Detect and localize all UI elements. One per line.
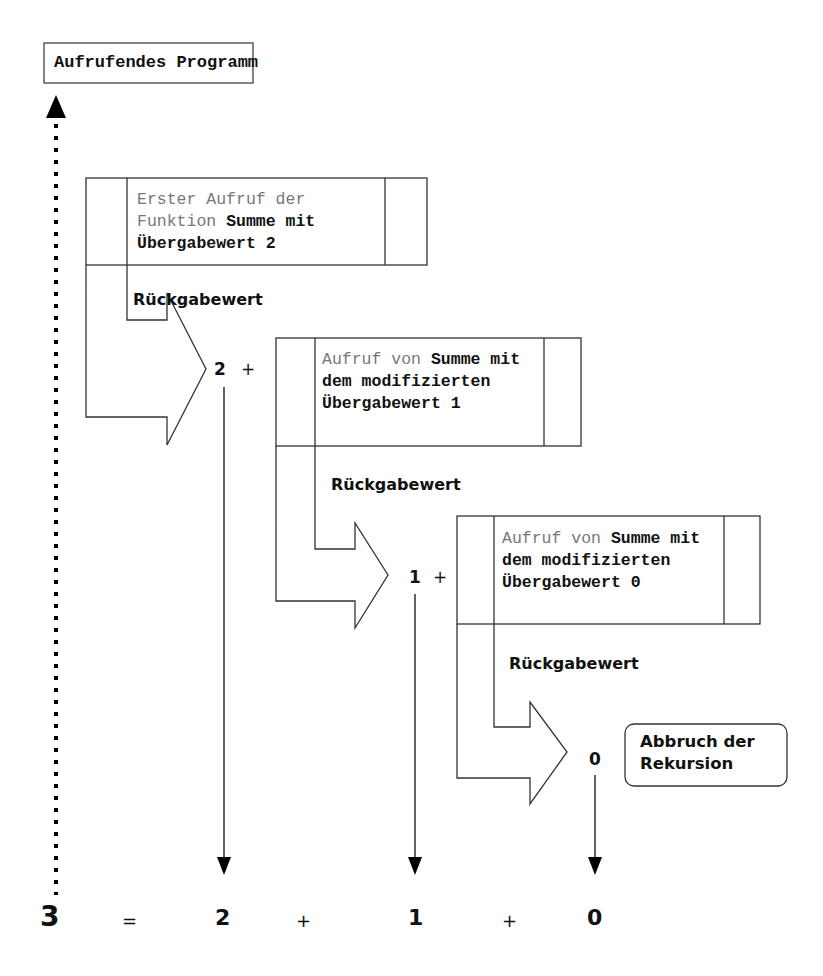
call-3-text-light: Aufruf von — [502, 529, 611, 548]
down-arrowheads — [217, 857, 602, 875]
return-to-caller-arrowhead — [46, 95, 66, 118]
call-2-plus: + — [433, 567, 447, 587]
call-3-return-label: Rückgabewert — [509, 654, 639, 673]
equation-result: 3 — [40, 900, 59, 933]
call-1-return-label: Rückgabewert — [133, 290, 263, 309]
caller-label: Aufrufendes Programm — [54, 53, 258, 72]
equation-op-1: + — [296, 910, 311, 931]
call-1-value: 2 — [214, 359, 226, 379]
equation-equals: = — [122, 910, 137, 931]
call-3-description: Aufruf von Summe mit dem modifizierten Ü… — [502, 528, 722, 594]
equation-term-1: 2 — [215, 905, 230, 930]
call-2-return-label: Rückgabewert — [331, 475, 461, 494]
equation-op-2: + — [502, 910, 517, 931]
call-1-description: Erster Aufruf der Funktion Summe mit Übe… — [137, 189, 377, 255]
call-1-plus: + — [241, 359, 255, 379]
call-2-text-light: Aufruf von — [322, 350, 431, 369]
call-2-description: Aufruf von Summe mit dem modifizierten Ü… — [322, 349, 542, 415]
equation-term-3: 0 — [587, 905, 602, 930]
call-2-value: 1 — [409, 567, 421, 587]
termination-label: Abbruch der Rekursion — [640, 731, 780, 775]
call-3-value: 0 — [589, 749, 601, 769]
equation-term-2: 1 — [408, 905, 423, 930]
